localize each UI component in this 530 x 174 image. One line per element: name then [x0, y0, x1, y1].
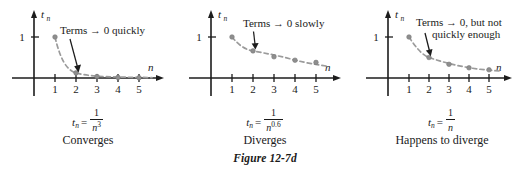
x-tick-label-3: 3 — [94, 83, 100, 95]
x-axis-arrowhead — [504, 75, 512, 81]
formula-numerator: 1 — [264, 108, 282, 119]
chart-panel-converges: 1 t n n 1 2 3 4 5 Terms → 0 quickl — [0, 0, 176, 174]
annotation-pointer-line — [70, 39, 78, 67]
data-point — [116, 75, 121, 80]
y-axis-arrowhead — [385, 10, 391, 18]
annotation-label: Terms → 0 slowly — [243, 17, 325, 29]
x-axis-arrowhead — [156, 75, 164, 81]
y-tick-label-1: 1 — [19, 31, 25, 43]
panel-caption-diverges: Diverges — [177, 133, 353, 148]
x-tick-label-2: 2 — [426, 83, 432, 95]
annotation-pointer-line — [425, 33, 430, 51]
sequence-curve — [55, 37, 152, 78]
formula-happens-to-diverge: tn=1n — [354, 108, 530, 133]
data-point — [230, 35, 235, 40]
y-tick-label-1: 1 — [373, 31, 379, 43]
formula-equals: = — [255, 116, 261, 128]
x-tick-label-5: 5 — [136, 83, 142, 95]
formula-lhs-sub: n — [431, 121, 435, 130]
chart-panel-diverges: 1 t n n 1 2 3 4 5 Terms → 0 slowly — [177, 0, 353, 174]
annotation-label: Terms → 0 quickly — [60, 24, 146, 36]
panel-caption-happens-to-diverge: Happens to diverge — [354, 133, 530, 148]
x-axis-label: n — [148, 61, 154, 73]
formula-equals: = — [437, 116, 443, 128]
x-tick-label-3: 3 — [271, 83, 277, 95]
formula-fraction: 1n0.6 — [264, 108, 282, 133]
data-point — [407, 35, 412, 40]
plot-area-happens-to-diverge: 1 t n n 1 2 3 4 5 Terms → 0, but not qui… — [354, 0, 530, 112]
annotation-pointer-line — [254, 32, 256, 45]
data-point — [251, 49, 256, 54]
data-point — [487, 68, 492, 73]
annotation-label-line-1: Terms → 0, but not — [416, 16, 502, 28]
formula-denominator: n — [446, 121, 455, 134]
annotation-label-line-2: quickly enough — [432, 28, 501, 40]
y-tick-label-1: 1 — [196, 31, 202, 43]
formula-denominator: n0.6 — [264, 121, 282, 134]
data-point — [293, 58, 298, 63]
data-point — [74, 71, 79, 76]
formula-denominator-exponent: 3 — [97, 120, 101, 129]
x-tick-label-2: 2 — [73, 83, 79, 95]
x-tick-label-5: 5 — [486, 83, 492, 95]
y-axis-label: t — [41, 8, 45, 20]
x-axis-arrowhead — [333, 75, 341, 81]
formula-equals: = — [81, 116, 87, 128]
formula-lhs-sub: n — [75, 121, 79, 130]
y-axis-label-sub: n — [224, 14, 228, 23]
formula-numerator: 1 — [90, 108, 103, 119]
chart-panel-happens-to-diverge: 1 t n n 1 2 3 4 5 Terms → 0, but not qui… — [354, 0, 530, 174]
data-point — [95, 74, 100, 79]
x-tick-label-1: 1 — [229, 83, 235, 95]
formula-converges: tn=1n3 — [0, 108, 176, 133]
formula-fraction: 1n — [446, 108, 455, 133]
y-axis-label: t — [218, 8, 222, 20]
x-axis-label: n — [325, 61, 331, 73]
formula-fraction: 1n3 — [90, 108, 103, 133]
x-tick-label-4: 4 — [466, 83, 472, 95]
data-point — [447, 62, 452, 67]
formula-lhs-sub: n — [249, 121, 253, 130]
y-axis-label-sub: n — [401, 14, 405, 23]
y-axis-arrowhead — [31, 10, 37, 18]
data-point — [314, 60, 319, 65]
data-point — [467, 66, 472, 71]
x-tick-label-2: 2 — [250, 83, 256, 95]
plot-area-diverges: 1 t n n 1 2 3 4 5 Terms → 0 slowly — [177, 0, 353, 112]
formula-denominator-base: n — [448, 122, 453, 133]
figure-container: 1 t n n 1 2 3 4 5 Terms → 0 quickl — [0, 0, 530, 174]
y-axis-arrowhead — [208, 10, 214, 18]
data-point — [137, 75, 142, 80]
x-tick-label-4: 4 — [115, 83, 121, 95]
y-axis-label: t — [395, 8, 399, 20]
formula-diverges: tn=1n0.6 — [177, 108, 353, 133]
formula-numerator: 1 — [446, 108, 455, 119]
sequence-curve — [409, 37, 502, 71]
x-tick-label-4: 4 — [292, 83, 298, 95]
formula-denominator: n3 — [90, 121, 103, 134]
plot-area-converges: 1 t n n 1 2 3 4 5 Terms → 0 quickl — [0, 0, 176, 112]
figure-caption: Figure 12-7d — [0, 152, 530, 164]
formula-denominator-exponent: 0.6 — [271, 120, 280, 129]
x-tick-label-3: 3 — [446, 83, 452, 95]
y-axis-label-sub: n — [47, 14, 51, 23]
x-tick-label-1: 1 — [406, 83, 412, 95]
data-point — [272, 55, 277, 60]
panel-caption-converges: Converges — [0, 133, 176, 148]
data-point — [53, 35, 58, 40]
x-tick-label-5: 5 — [313, 83, 319, 95]
x-tick-label-1: 1 — [52, 83, 58, 95]
